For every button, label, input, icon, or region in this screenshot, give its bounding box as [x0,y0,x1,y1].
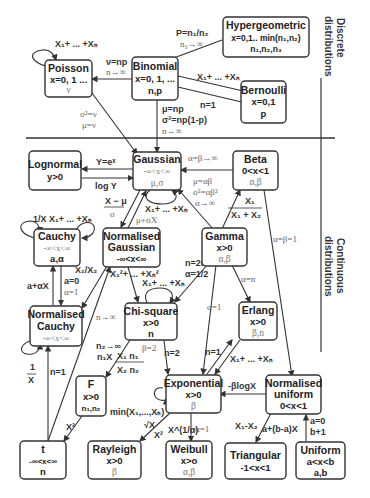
svg-text:0<x<1: 0<x<1 [242,165,270,176]
svg-text:X₁+ ... +Xₙ: X₁+ ... +Xₙ [230,354,273,364]
node-t[interactable]: t -∞<x<∞ n [20,441,66,479]
svg-text:β: β [112,467,117,477]
node-binomial[interactable]: Binomial x=0, 1, ... n,p [132,57,178,100]
edge-poisson-gaussian [92,93,137,154]
edge-gaussian-self [146,190,176,204]
edge-exponential-self [154,388,166,401]
node-uniform[interactable]: Uniform a<x<b a,b [296,442,345,479]
svg-text:Exponential: Exponential [164,377,224,389]
svg-text:x=0,1: x=0,1 [251,96,276,107]
svg-text:n=1: n=1 [50,367,66,377]
svg-text:Cauchy: Cauchy [38,230,76,242]
svg-text:F: F [88,378,95,390]
svg-text:n→∞: n→∞ [162,126,182,136]
node-beta[interactable]: Beta 0<x<1 α,β [233,151,278,190]
svg-text:0<x<1: 0<x<1 [280,400,308,411]
svg-text:X₁+ ... +Xₙ: X₁+ ... +Xₙ [55,39,98,49]
node-exponential[interactable]: Exponential x>0 β [164,375,224,413]
svg-text:X²: X² [66,422,75,432]
svg-text:x>0: x>0 [106,455,122,466]
svg-text:X^(1/α): X^(1/α) [168,425,198,435]
svg-text:n=2: n=2 [164,348,180,358]
svg-text:Continuous: Continuous [335,238,346,294]
node-chi-square[interactable]: Chi-square x>0 n [124,303,179,340]
svg-text:a=0: a=0 [310,416,325,426]
node-gamma[interactable]: Gamma x>0 α,β [202,228,247,266]
svg-text:x>0: x>0 [216,242,232,253]
svg-text:α=β=1: α=β=1 [273,234,297,244]
svg-text:α=1: α=1 [64,287,78,297]
node-gaussian[interactable]: Gaussian -∞<x<∞ μ,σ [133,152,181,190]
node-hypergeometric[interactable]: Hypergeometric x=0,1.. min(n₁,n₂) n₁,n₂,… [223,17,309,57]
svg-text:Uniform: Uniform [300,444,340,456]
svg-text:a+(b-a)X: a+(b-a)X [262,424,298,434]
svg-text:Bernoulli: Bernoulli [241,84,287,96]
svg-text:-∞<x<∞: -∞<x<∞ [29,457,57,466]
svg-text:Gamma: Gamma [205,230,244,242]
svg-text:X₁: X₁ [245,196,255,206]
svg-text:√X: √X [144,420,155,430]
svg-text:x=0,1.. min(n₁,n₂): x=0,1.. min(n₁,n₂) [231,33,301,43]
svg-text:y>0: y>0 [47,171,63,182]
continuous-section-label: Continuous distributions [323,236,346,297]
svg-text:x>o: x>o [181,455,198,466]
node-erlang[interactable]: Erlang x>0 β,n [239,302,277,340]
svg-text:x>0: x>0 [250,316,266,327]
svg-text:α=β→∞: α=β→∞ [188,153,218,163]
svg-text:a,α: a,α [50,253,64,264]
svg-text:Binomial: Binomial [133,60,177,72]
svg-text:distributions: distributions [323,16,334,77]
svg-text:X₁ n₁: X₁ n₁ [117,351,139,361]
svg-text:β: β [191,401,196,411]
node-normalised-cauchy[interactable]: Normalised Cauchy -∞<x<∞ [27,306,84,346]
edge-beta-normuniform [264,190,292,376]
svg-text:X₂ n₂: X₂ n₂ [117,365,139,375]
node-lognormal[interactable]: Lognormal y>0 [28,151,82,190]
svg-text:X₁/X₂: X₁/X₂ [75,265,97,275]
svg-text:σ²=ν: σ²=ν [80,109,97,119]
svg-text:-∞<x<∞: -∞<x<∞ [42,334,69,343]
svg-text:μ=np: μ=np [162,104,184,114]
node-bernoulli[interactable]: Bernoulli x=0,1 p [241,81,287,123]
svg-text:Triangular: Triangular [230,449,281,461]
svg-text:a<x<b: a<x<b [307,456,335,467]
svg-text:Discrete: Discrete [335,18,346,58]
node-poisson[interactable]: Poisson x=0, 1 ... ν [45,60,92,97]
svg-text:X: X [28,375,34,385]
svg-text:ν: ν [66,85,71,95]
svg-text:α→∞: α→∞ [195,198,215,208]
svg-text:x>0: x>0 [185,389,201,400]
svg-text:n₁,n₂,n₃: n₁,n₂,n₃ [250,44,282,54]
node-f[interactable]: F x>0 n₁,n₂ [76,376,106,416]
svg-text:X₁+ ... +Xₙ: X₁+ ... +Xₙ [49,214,92,224]
svg-text:-1<x<1: -1<x<1 [240,462,271,473]
svg-text:-∞<x<∞: -∞<x<∞ [143,167,170,176]
svg-text:μ=αβ: μ=αβ [193,176,213,186]
svg-text:Chi-square: Chi-square [124,305,179,317]
svg-text:β,n: β,n [252,328,264,338]
svg-text:n=1: n=1 [205,347,221,357]
svg-text:X₁+ ... +Xₙ: X₁+ ... +Xₙ [142,278,185,288]
node-normalised-gaussian[interactable]: Normalised Gaussian -∞<x<∞ [103,228,160,267]
node-triangular[interactable]: Triangular -1<x<1 [225,443,286,479]
svg-text:x=0, 1, ...: x=0, 1, ... [135,73,175,84]
svg-text:Gaussian: Gaussian [108,241,155,253]
node-weibull[interactable]: Weibull x>o α,β [166,441,212,479]
distribution-relationships-diagram: Discrete distributions Continuous distri… [0,0,370,498]
node-cauchy[interactable]: Cauchy -∞<x<∞ a,α [34,229,80,266]
node-normalised-uniform[interactable]: Normalised uniform 0<x<1 [265,375,322,414]
svg-text:n→∞: n→∞ [96,312,116,322]
svg-text:α=1/2: α=1/2 [185,269,208,279]
svg-text:Hypergeometric: Hypergeometric [226,19,306,31]
svg-text:Beta: Beta [244,153,267,165]
svg-text:X₁+ ... +Xₙ: X₁+ ... +Xₙ [197,72,240,82]
svg-text:t: t [41,443,45,455]
svg-text:μ+σX: μ+σX [136,215,158,225]
node-rayleigh[interactable]: Rayleigh x>0 β [88,441,141,479]
svg-text:a+αX: a+αX [27,281,49,291]
svg-text:α=1: α=1 [207,302,221,312]
svg-text:n₂→∞: n₂→∞ [96,341,121,351]
svg-text:n₃→∞: n₃→∞ [180,39,203,49]
svg-text:Normalised: Normalised [27,308,84,320]
svg-text:σ²=np(1-p): σ²=np(1-p) [162,115,207,125]
